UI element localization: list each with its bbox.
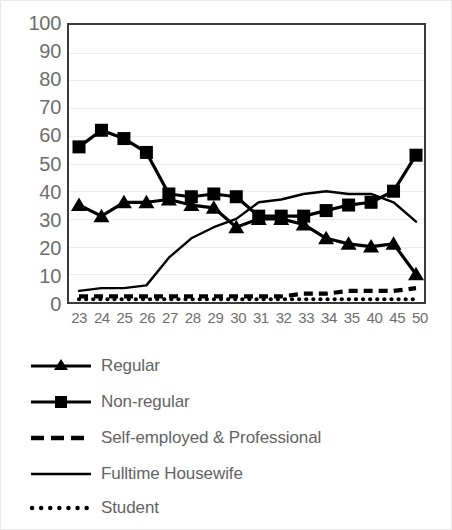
y-tick-label: 50 bbox=[3, 154, 61, 174]
marker-square-non-regular bbox=[140, 146, 153, 159]
marker-square-non-regular bbox=[73, 140, 86, 153]
legend-swatch-fulltime-housewife-icon bbox=[29, 463, 93, 485]
marker-triangle-regular bbox=[318, 231, 334, 245]
legend-label: Student bbox=[101, 498, 159, 518]
marker-square-non-regular bbox=[162, 187, 175, 200]
marker-square-non-regular bbox=[297, 210, 310, 223]
legend-swatch-non-regular-icon bbox=[29, 391, 93, 413]
marker-square-non-regular bbox=[365, 196, 378, 209]
legend-label: Regular bbox=[101, 356, 160, 376]
x-tick-label: 45 bbox=[386, 310, 408, 325]
x-tick-label: 26 bbox=[136, 310, 158, 325]
y-tick-label: 20 bbox=[3, 238, 61, 258]
y-axis: 1009080706050403020100 bbox=[1, 1, 61, 326]
legend-swatch-student-icon bbox=[29, 497, 93, 519]
x-tick-label: 32 bbox=[273, 310, 295, 325]
marker-square-non-regular bbox=[410, 149, 423, 162]
legend-item-student[interactable]: Student bbox=[29, 491, 159, 525]
x-tick-label: 28 bbox=[182, 310, 204, 325]
legend-label: Fulltime Housewife bbox=[101, 464, 243, 484]
y-tick-label: 90 bbox=[3, 41, 61, 61]
legend-label: Non-regular bbox=[101, 392, 190, 412]
x-axis: 23242526272829303132333435404550 bbox=[67, 310, 426, 340]
x-tick-label: 34 bbox=[318, 310, 340, 325]
x-tick-label: 50 bbox=[409, 310, 431, 325]
marker-triangle-regular bbox=[93, 209, 109, 223]
marker-square-non-regular bbox=[275, 210, 288, 223]
x-tick-label: 30 bbox=[227, 310, 249, 325]
marker-square-non-regular bbox=[117, 132, 130, 145]
marker-square-non-regular bbox=[320, 204, 333, 217]
x-tick-label: 31 bbox=[250, 310, 272, 325]
marker-square-non-regular bbox=[207, 187, 220, 200]
y-tick-label: 80 bbox=[3, 69, 61, 89]
series-plot bbox=[69, 25, 424, 302]
x-tick-label: 29 bbox=[204, 310, 226, 325]
x-tick-label: 23 bbox=[68, 310, 90, 325]
legend-item-regular[interactable]: Regular bbox=[29, 349, 160, 383]
x-tick-label: 27 bbox=[159, 310, 181, 325]
chart-card: 1009080706050403020100 23242526272829303… bbox=[0, 0, 452, 530]
y-tick-label: 70 bbox=[3, 97, 61, 117]
marker-square-non-regular bbox=[185, 190, 198, 203]
x-tick-label: 25 bbox=[114, 310, 136, 325]
legend-item-self-employed-professional[interactable]: Self-employed & Professional bbox=[29, 421, 321, 455]
marker-square-non-regular bbox=[387, 185, 400, 198]
marker-square-non-regular bbox=[230, 190, 243, 203]
legend-swatch-regular-icon bbox=[29, 355, 93, 377]
y-tick-label: 100 bbox=[3, 13, 61, 33]
plot-area bbox=[67, 23, 426, 304]
y-tick-label: 10 bbox=[3, 266, 61, 286]
legend-label: Self-employed & Professional bbox=[101, 428, 321, 448]
series-line-self-employed-professional bbox=[79, 288, 416, 296]
x-tick-label: 40 bbox=[363, 310, 385, 325]
marker-triangle-regular bbox=[71, 198, 87, 212]
marker-square-non-regular bbox=[342, 199, 355, 212]
legend-swatch-self-employed-professional-icon bbox=[29, 427, 93, 449]
marker-square-non-regular bbox=[252, 210, 265, 223]
y-tick-label: 30 bbox=[3, 210, 61, 230]
x-tick-label: 35 bbox=[341, 310, 363, 325]
legend-item-fulltime-housewife[interactable]: Fulltime Housewife bbox=[29, 457, 243, 491]
x-tick-label: 24 bbox=[91, 310, 113, 325]
x-tick-label: 33 bbox=[295, 310, 317, 325]
y-tick-label: 40 bbox=[3, 182, 61, 202]
marker-square-non-regular bbox=[95, 124, 108, 137]
y-tick-label: 0 bbox=[3, 294, 61, 314]
chart-legend: RegularNon-regularSelf-employed & Profes… bbox=[1, 349, 452, 525]
y-tick-label: 60 bbox=[3, 125, 61, 145]
legend-item-non-regular[interactable]: Non-regular bbox=[29, 385, 190, 419]
